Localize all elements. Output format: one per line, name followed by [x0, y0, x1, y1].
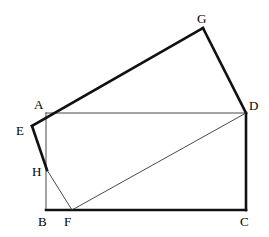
- vertex-label-e: E: [16, 124, 24, 137]
- vertex-label-b: B: [38, 215, 47, 228]
- vertex-label-a: A: [34, 98, 43, 111]
- vertex-label-h: H: [32, 165, 41, 178]
- vertex-label-c: C: [240, 215, 249, 228]
- segment-HF: [47, 170, 72, 210]
- segments-group: [32, 28, 246, 210]
- vertex-label-d: D: [249, 99, 258, 112]
- vertex-label-f: F: [64, 215, 71, 228]
- segment-GD: [203, 28, 246, 113]
- segment-FD: [72, 113, 246, 210]
- vertex-label-g: G: [197, 12, 206, 25]
- figure-canvas: [0, 0, 269, 237]
- geometry-figure: GADEHBFC: [0, 0, 269, 237]
- segment-EG: [32, 28, 203, 126]
